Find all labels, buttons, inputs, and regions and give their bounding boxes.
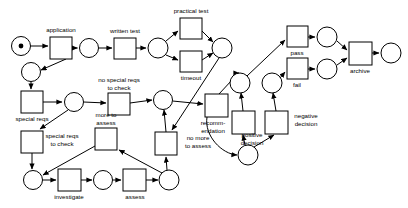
label-lbl_reqs_check_1: special reqs bbox=[45, 132, 78, 139]
transition-t_application[interactable] bbox=[50, 37, 72, 59]
place-p_after_wtest[interactable] bbox=[148, 38, 168, 58]
arc-a_place_timeout bbox=[166, 55, 178, 60]
transition-t_pass[interactable] bbox=[287, 26, 308, 47]
place-p_decision[interactable] bbox=[238, 145, 258, 165]
label-lbl_archive: archive bbox=[350, 67, 371, 74]
place-p_assess_in[interactable] bbox=[94, 171, 113, 190]
label-lbl_no_special_1: no special reqs bbox=[98, 76, 140, 83]
arc-a_ptest_place bbox=[202, 31, 213, 42]
label-lbl_application: application bbox=[46, 26, 76, 33]
place-p_pass_in[interactable] bbox=[230, 73, 250, 93]
place-p_fail_out[interactable] bbox=[317, 59, 337, 79]
token-p_start bbox=[19, 44, 24, 49]
transition-t_written_test[interactable] bbox=[114, 38, 136, 59]
transition-t_fail[interactable] bbox=[287, 58, 308, 79]
petri-net-svg: applicationwritten testpractical testtim… bbox=[0, 0, 408, 208]
transition-t_assess[interactable] bbox=[123, 169, 146, 191]
label-lbl_recomm_1: recomm- bbox=[201, 119, 225, 126]
label-lbl_negative_2: decision bbox=[295, 120, 318, 127]
arc-a_passout_arch bbox=[337, 41, 347, 50]
place-p_after_app[interactable] bbox=[80, 39, 99, 58]
arc-a_pos_passin bbox=[241, 93, 243, 111]
arc-a_place_nospecial bbox=[84, 102, 107, 103]
transition-t_timeout[interactable] bbox=[180, 51, 202, 72]
arc-a_neg_failin bbox=[273, 93, 276, 111]
label-lbl_assess: assess bbox=[125, 193, 144, 200]
place-p_pass_out[interactable] bbox=[317, 27, 337, 47]
label-lbl_reqs_check_2: to check bbox=[50, 140, 74, 147]
arc-a_place_ptest bbox=[166, 31, 178, 41]
place-p_pre_rec[interactable] bbox=[154, 91, 173, 110]
transition-t_negative[interactable] bbox=[265, 111, 288, 134]
label-lbl_investigate: investigate bbox=[54, 193, 84, 200]
transition-t_practical[interactable] bbox=[180, 18, 202, 39]
label-lbl_negative_1: negative bbox=[294, 112, 318, 119]
label-lbl_positive_2: decision bbox=[241, 139, 264, 146]
petri-net-diagram-canvas: applicationwritten testpractical testtim… bbox=[0, 0, 408, 208]
arc-a_timeout_place bbox=[202, 53, 213, 60]
arc-a_assessout_nomore bbox=[166, 157, 167, 170]
label-lbl_fail: fail bbox=[293, 81, 301, 88]
place-p_fail_in[interactable] bbox=[262, 73, 282, 93]
place-p_branch_app[interactable] bbox=[22, 63, 41, 82]
label-lbl_pass: pass bbox=[290, 49, 303, 56]
transition-t_recommend[interactable] bbox=[205, 94, 228, 117]
arc-a_failout_arch bbox=[337, 58, 347, 65]
transition-t_investigate[interactable] bbox=[58, 169, 81, 191]
label-lbl_recomm_2: endation bbox=[201, 127, 225, 134]
arc-a_failin_fail bbox=[280, 72, 285, 78]
transition-t_no_more[interactable] bbox=[155, 132, 177, 155]
arc-a_nospecial_pre bbox=[130, 100, 152, 103]
transition-t_more_assess[interactable] bbox=[95, 128, 117, 150]
place-p_after_ptest[interactable] bbox=[212, 38, 232, 58]
arc-a_app_branch bbox=[41, 59, 66, 70]
label-lbl_timeout: timeout bbox=[181, 74, 202, 81]
label-lbl_no_more_2: to assess bbox=[185, 142, 211, 149]
transition-t_reqs_to_check[interactable] bbox=[21, 131, 43, 153]
label-lbl_positive_1: positive bbox=[242, 131, 264, 138]
arc-a_pre_recommend bbox=[173, 101, 204, 104]
transition-t_archive[interactable] bbox=[349, 42, 372, 65]
place-p_invest_in[interactable] bbox=[24, 171, 43, 190]
arc-a_passin_pass bbox=[247, 40, 285, 76]
arc-a_nomore_pre bbox=[164, 110, 166, 132]
label-lbl_more_2: assess bbox=[96, 119, 115, 126]
label-lbl_no_special_2: to check bbox=[107, 84, 131, 91]
label-lbl_more_1: more to bbox=[96, 111, 118, 118]
place-p_end[interactable] bbox=[381, 43, 401, 63]
label-lbl_no_more_1: no more bbox=[187, 134, 210, 141]
transition-t_special_reqs[interactable] bbox=[21, 91, 43, 113]
label-lbl_special_reqs: special reqs bbox=[15, 115, 48, 122]
label-lbl_written_test: written test bbox=[109, 27, 140, 34]
place-p_assess_out[interactable] bbox=[159, 170, 179, 190]
label-lbl_practical: practical test bbox=[174, 7, 209, 14]
place-p_special[interactable] bbox=[65, 93, 84, 112]
